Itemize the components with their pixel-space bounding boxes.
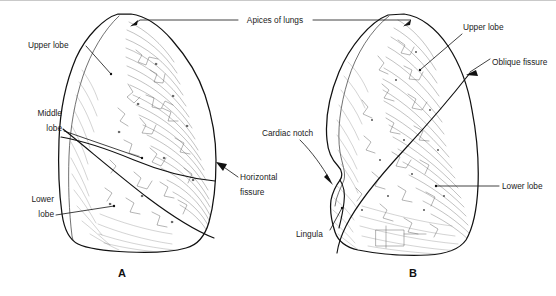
lung-b-group: B (327, 14, 479, 279)
label-lingula: Lingula (296, 229, 323, 239)
lingula-point (341, 207, 343, 209)
label-apices-of-lungs: Apices of lungs (247, 15, 303, 25)
panel-letter-a: A (118, 267, 126, 279)
annotation-apices-of-lungs: Apices of lungs (131, 15, 411, 26)
label-middle-lobe-a-line1: Middle (38, 108, 63, 118)
lung-a-outline (59, 14, 216, 252)
panel-letter-b: B (409, 267, 417, 279)
middle-lobe-a-point (141, 157, 143, 159)
annotation-horizontal-fissure: Horizontal fissure (216, 162, 278, 197)
oblique-fissure-leader (470, 59, 490, 72)
label-middle-lobe-a-line2: lobe (46, 123, 62, 133)
label-upper-lobe-a: Upper lobe (28, 40, 69, 50)
label-oblique-fissure: Oblique fissure (492, 57, 548, 67)
label-horizontal-fissure-line2: fissure (240, 187, 265, 197)
label-cardiac-notch: Cardiac notch (262, 128, 314, 138)
label-lower-lobe-b: Lower lobe (502, 181, 543, 191)
cardiac-notch-arrowhead (324, 174, 333, 185)
label-upper-lobe-b: Upper lobe (463, 22, 504, 32)
label-horizontal-fissure-line1: Horizontal (240, 172, 278, 182)
cardiac-notch-leader (300, 140, 330, 180)
label-lower-lobe-a-line1: Lower (31, 194, 54, 204)
figure-root: A (0, 0, 556, 296)
annotation-oblique-fissure: Oblique fissure (466, 57, 548, 76)
lungs-illustration: A (0, 0, 556, 296)
lung-a-group: A (59, 14, 216, 279)
lower-lobe-a-point (113, 205, 115, 207)
lower-lobe-b-point (435, 185, 437, 187)
horizontal-fissure-arrowhead (216, 162, 227, 171)
upper-lobe-a-point (110, 73, 112, 75)
upper-lobe-b-point (419, 69, 421, 71)
label-lower-lobe-a-line2: lobe (38, 209, 54, 219)
